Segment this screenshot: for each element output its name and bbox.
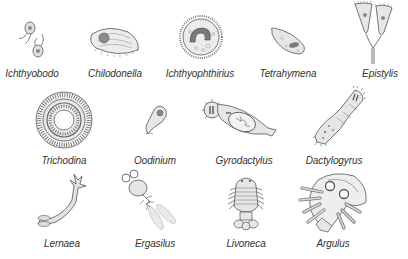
livoneca-drawing (226, 176, 266, 232)
label-trichodina: Trichodina (42, 155, 87, 166)
label-tetrahymena: Tetrahymena (260, 68, 317, 79)
ichthyobodo-drawing (15, 18, 55, 58)
lernaea-illustration (34, 170, 98, 230)
chilodonella-drawing (88, 24, 143, 58)
label-ergasilus: Ergasilus (135, 238, 175, 249)
oodinium-drawing (140, 104, 170, 138)
ichthyobodo-illustration (15, 18, 55, 58)
label-epistylis: Epistylis (362, 68, 398, 79)
ichthyophthirius-drawing (178, 14, 224, 60)
ergasilus-drawing (120, 170, 184, 234)
ergasilus-illustration (120, 170, 184, 234)
dactylogyrus-drawing (305, 86, 367, 146)
label-lernaea: Lernaea (44, 238, 80, 249)
gyrodactylus-illustration (204, 96, 282, 144)
label-oodinium: Oodinium (134, 155, 176, 166)
label-dactylogyrus: Dactylogyrus (306, 155, 363, 166)
argulus-drawing (298, 172, 370, 234)
argulus-illustration (298, 172, 370, 234)
label-livoneca: Livoneca (226, 238, 265, 249)
epistylis-illustration (350, 0, 408, 64)
oodinium-illustration (140, 104, 170, 138)
trichodina-drawing (34, 90, 94, 150)
lernaea-drawing (34, 170, 98, 230)
chilodonella-illustration (88, 24, 143, 58)
livoneca-illustration (226, 176, 266, 232)
tetrahymena-illustration (268, 26, 308, 56)
label-argulus: Argulus (316, 238, 349, 249)
label-chilodonella: Chilodonella (88, 68, 142, 79)
label-ichthyophthirius: Ichthyophthirius (166, 68, 234, 79)
ichthyophthirius-illustration (178, 14, 224, 60)
trichodina-illustration (34, 90, 94, 150)
label-gyrodactylus: Gyrodactylus (215, 155, 272, 166)
gyrodactylus-drawing (204, 96, 282, 144)
dactylogyrus-illustration (305, 86, 367, 146)
tetrahymena-drawing (268, 26, 308, 56)
epistylis-drawing (350, 0, 408, 64)
label-ichthyobodo: Ichthyobodo (5, 68, 58, 79)
